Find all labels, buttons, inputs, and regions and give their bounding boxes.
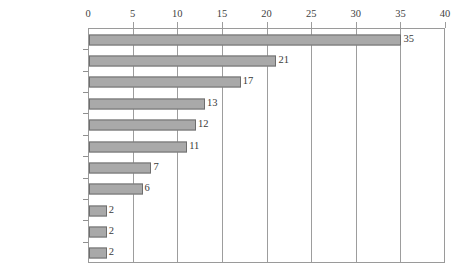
bar-value-label: 21 (278, 54, 289, 66)
bar (89, 77, 241, 88)
y-axis-tick-mark (83, 113, 88, 114)
x-axis-tick-mark (445, 22, 446, 28)
gridline (356, 29, 357, 262)
bar (89, 34, 401, 45)
y-axis-tick-mark (83, 71, 88, 72)
y-axis-tick-mark (83, 92, 88, 93)
bar (89, 98, 205, 109)
bar (89, 205, 107, 216)
y-axis-tick-mark (83, 135, 88, 136)
bar-value-label: 2 (109, 246, 114, 258)
bar-value-label: 35 (403, 33, 414, 45)
bar (89, 248, 107, 259)
x-axis-tick-label: 15 (217, 8, 228, 20)
x-axis-tick-label: 0 (85, 8, 90, 20)
y-axis-tick-mark (83, 156, 88, 157)
bar-value-label: 11 (189, 140, 199, 152)
gridline (311, 29, 312, 262)
bar-value-label: 7 (153, 161, 158, 173)
bar-chart: 0510152025303540 工作增加改变数量工作减少改变结构改变材料改变施… (0, 0, 465, 277)
bar-value-label: 2 (109, 204, 114, 216)
bar-value-label: 17 (243, 75, 254, 87)
y-axis-tick-mark (83, 220, 88, 221)
x-axis-tick-label: 10 (172, 8, 183, 20)
gridline (400, 29, 401, 262)
x-axis-tick-label: 40 (440, 8, 451, 20)
bar (89, 162, 151, 173)
x-axis-tick-label: 30 (351, 8, 362, 20)
y-axis-tick-mark (83, 49, 88, 50)
bar-value-label: 2 (109, 225, 114, 237)
bar-value-label: 13 (207, 97, 218, 109)
y-axis-tick-mark (83, 199, 88, 200)
bar (89, 120, 196, 131)
bar (89, 56, 276, 67)
y-axis-tick-mark (83, 178, 88, 179)
x-axis-tick-label: 25 (306, 8, 317, 20)
x-axis-tick-label: 5 (130, 8, 135, 20)
x-axis-tick-label: 20 (261, 8, 272, 20)
x-axis-tick-label: 35 (395, 8, 406, 20)
bar (89, 226, 107, 237)
bar-value-label: 6 (145, 182, 150, 194)
bar-value-label: 12 (198, 118, 209, 130)
y-axis-tick-mark (83, 242, 88, 243)
bar (89, 141, 187, 152)
bar (89, 184, 143, 195)
plot-area (88, 28, 445, 263)
